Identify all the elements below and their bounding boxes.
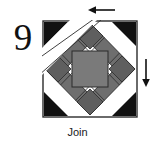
center-square <box>72 51 108 87</box>
step-number: 9 <box>6 16 40 60</box>
arrow-left-icon <box>86 4 116 16</box>
step-diagram: 9 <box>0 0 155 144</box>
caption-label: Join <box>0 126 155 138</box>
quilt-block <box>42 20 138 118</box>
arrow-down-icon <box>140 58 152 88</box>
